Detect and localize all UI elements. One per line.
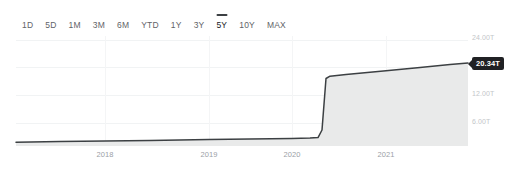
range-button-label: 5D <box>45 20 56 31</box>
range-button-3m[interactable]: 3M <box>87 14 111 33</box>
series-area-fill <box>16 63 468 146</box>
range-button-5y[interactable]: 5Y <box>210 14 233 33</box>
range-button-label: 6M <box>117 20 129 31</box>
range-button-label: MAX <box>267 20 286 31</box>
current-price-flag: 20.34T <box>472 57 504 70</box>
range-button-label: 1Y <box>171 20 182 31</box>
y-axis-tick-label: 24.00T <box>472 34 494 42</box>
range-button-3y[interactable]: 3Y <box>188 14 211 33</box>
x-axis-tick-label: 2021 <box>377 150 394 160</box>
range-option-list: 1D5D1M3M6MYTD1Y3Y5Y10YMAX <box>16 14 292 33</box>
range-selector-toolbar: 1D5D1M3M6MYTD1Y3Y5Y10YMAX <box>0 14 520 36</box>
chart-svg <box>0 36 520 148</box>
y-axis-tick-label: 12.00T <box>472 90 494 98</box>
range-button-1d[interactable]: 1D <box>16 14 39 33</box>
range-button-label: 3M <box>93 20 105 31</box>
range-button-label: YTD <box>141 20 159 31</box>
range-button-max[interactable]: MAX <box>261 14 292 33</box>
y-axis-tick-label: 6.00T <box>472 118 490 126</box>
y-axis-labels: 24.00T18.00T12.00T6.00T <box>472 36 520 148</box>
range-button-1m[interactable]: 1M <box>63 14 87 33</box>
range-button-label: 10Y <box>239 20 255 31</box>
x-axis-labels: 2018201920202021 <box>0 150 520 164</box>
range-button-5d[interactable]: 5D <box>39 14 62 33</box>
range-button-6m[interactable]: 6M <box>111 14 135 33</box>
chart-plot-area[interactable] <box>0 36 520 148</box>
range-button-1y[interactable]: 1Y <box>165 14 188 33</box>
range-button-10y[interactable]: 10Y <box>233 14 261 33</box>
range-button-label: 5Y <box>216 20 227 31</box>
x-axis-tick-label: 2019 <box>200 150 217 160</box>
range-button-label: 1M <box>69 20 81 31</box>
range-button-ytd[interactable]: YTD <box>135 14 165 33</box>
range-button-label: 3Y <box>194 20 205 31</box>
selected-range-marker <box>216 14 227 16</box>
current-price-value: 20.34T <box>476 59 500 68</box>
flag-pointer-icon <box>468 60 472 68</box>
x-axis-tick-label: 2018 <box>96 150 113 160</box>
market-cap-chart-widget: 1D5D1M3M6MYTD1Y3Y5Y10YMAX 24. <box>0 0 520 176</box>
x-axis-tick-label: 2020 <box>283 150 300 160</box>
range-button-label: 1D <box>22 20 33 31</box>
